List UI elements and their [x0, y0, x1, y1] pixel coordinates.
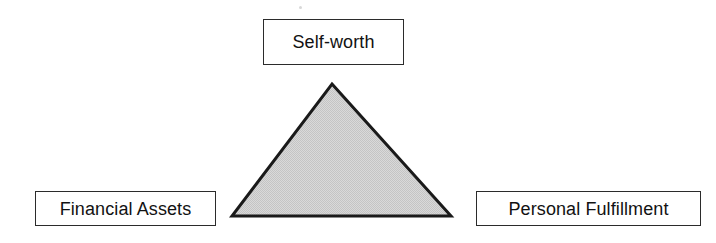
node-box-personal-fulfillment[interactable]: Personal Fulfillment [476, 191, 701, 226]
node-box-self-worth[interactable]: Self-worth [263, 19, 404, 65]
scan-artifact-speck [299, 6, 302, 9]
node-label-self-worth: Self-worth [292, 33, 374, 51]
node-box-financial-assets[interactable]: Financial Assets [35, 191, 216, 226]
diagram-canvas: Self-worth Financial Assets Personal Ful… [0, 0, 716, 243]
triangle-polygon [232, 84, 451, 216]
node-label-financial-assets: Financial Assets [60, 200, 192, 218]
node-label-personal-fulfillment: Personal Fulfillment [508, 200, 668, 218]
